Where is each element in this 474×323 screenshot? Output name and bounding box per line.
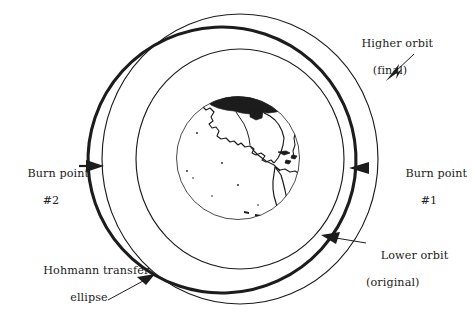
- hohmann-transfer-label-line1: Hohmann transfer: [43, 264, 149, 277]
- burn-point-1-label-line2: #1: [386, 194, 472, 207]
- higher-orbit-label-line2: (final): [330, 64, 450, 77]
- burn-point-2-label-line1: Burn point: [27, 167, 89, 180]
- burn-point-2-label-line2: #2: [8, 194, 94, 207]
- burn-point-1-label-line1: Burn point: [405, 167, 467, 180]
- hohmann-transfer-label-line2: ellipse: [22, 291, 156, 304]
- lower-orbit-label: Lower orbit (original): [366, 236, 472, 315]
- lower-orbit-label-line1: Lower orbit: [381, 249, 449, 262]
- hohmann-transfer-figure: Higher orbit (final) Burn point #2 Burn …: [0, 0, 474, 323]
- higher-orbit-label-line1: Higher orbit: [361, 37, 433, 50]
- hohmann-transfer-label: Hohmann transfer ellipse: [22, 251, 156, 323]
- higher-orbit-label: Higher orbit (final): [330, 24, 450, 103]
- burn-point-2-label: Burn point #2: [8, 154, 94, 233]
- burn-point-1-label: Burn point #1: [386, 154, 472, 233]
- lower-orbit-label-line2: (original): [366, 276, 472, 289]
